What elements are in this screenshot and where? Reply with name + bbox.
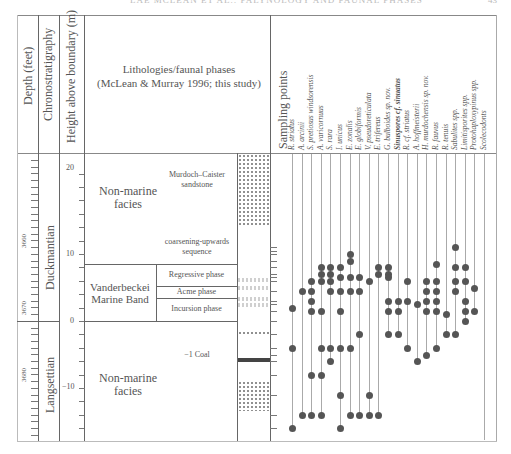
occurrence-dot [337, 425, 344, 432]
height-label-0: 0 [70, 316, 74, 325]
occurrence-dot [375, 271, 382, 278]
occurrence-dot [337, 274, 344, 281]
depth-tick [31, 368, 38, 369]
sample-tick [270, 395, 277, 396]
occurrence-dot [318, 345, 325, 352]
species-label: Scolecodonts [479, 110, 488, 150]
sandstone-line2: sandstone [157, 180, 237, 190]
height-label-minus10: −10 [62, 382, 75, 391]
sandstone-label: Murdoch–Caister sandstone [157, 170, 237, 190]
coal-seam [238, 358, 270, 362]
depth-tick [31, 281, 38, 282]
height-tick [79, 187, 85, 188]
occurrence-dot [395, 331, 402, 338]
occurrence-dot [462, 264, 469, 271]
occurrence-dot [375, 412, 382, 419]
col-divider-height [84, 15, 85, 441]
sample-tick [270, 355, 277, 356]
coarsening-label: coarsening-upwards sequence [157, 237, 237, 257]
occurrence-dot [347, 258, 354, 265]
occurrence-dot [289, 345, 296, 352]
depth-tick [31, 294, 38, 295]
height-tick [79, 241, 84, 242]
sample-tick [270, 267, 277, 268]
marine-band-label: Vanderbeckei Marine Band [84, 281, 156, 305]
height-tick [79, 254, 85, 255]
species-range-line [359, 154, 360, 415]
depth-tick [31, 247, 38, 248]
occurrence-dot [299, 412, 306, 419]
stage-langsettian: Langsettian [43, 357, 58, 413]
species-label: G. bulboides sp. nov. [383, 87, 392, 150]
occurrence-dot [414, 301, 421, 308]
occurrence-dot [337, 392, 344, 399]
species-range-line [465, 154, 466, 321]
marine-pattern-2 [238, 286, 270, 290]
depth-tick [31, 314, 38, 315]
depth-tick [31, 214, 38, 215]
occurrence-dot [462, 308, 469, 315]
depth-tick [31, 173, 38, 174]
occurrence-dot [308, 288, 315, 295]
occurrence-dot [452, 264, 459, 271]
height-tick [79, 174, 84, 175]
occurrence-dot [433, 308, 440, 315]
depth-tick [31, 354, 38, 355]
page-number: 43 [488, 0, 497, 5]
occurrence-dot [347, 288, 354, 295]
occurrence-dot [308, 298, 315, 305]
occurrence-dot [462, 318, 469, 325]
frame-bottom [17, 441, 497, 442]
depth-tick [31, 395, 38, 396]
upper-facies-line2: facies [88, 198, 168, 211]
species-range-line [417, 154, 418, 361]
occurrence-dot [337, 264, 344, 271]
marine-band-base [84, 321, 237, 322]
header-lithology-line2: (McLean & Murray 1996; this study) [88, 76, 270, 90]
species-label: A. varicornuus [316, 105, 325, 150]
depth-tick [31, 428, 38, 429]
occurrence-dot [366, 412, 373, 419]
depth-tick [31, 307, 38, 308]
species-label: S. rara [325, 129, 334, 150]
depth-tick [31, 287, 38, 288]
col-divider-lithology [270, 15, 271, 441]
occurrence-dot [443, 331, 450, 338]
occurrence-dot [385, 274, 392, 281]
height-tick [79, 214, 84, 215]
species-range-line [330, 154, 331, 361]
species-label: Sinuspores cf. sinuatus [393, 78, 402, 150]
occurrence-dot [433, 288, 440, 295]
depth-tick [31, 160, 38, 161]
occurrence-dot [356, 331, 363, 338]
species-label: E. zonalis [345, 120, 354, 150]
frame-right [496, 15, 497, 441]
sample-tick [270, 301, 277, 302]
species-label: S. pretiosus windsorensis [306, 75, 315, 151]
occurrence-dot [385, 331, 392, 338]
species-label: E. globiformis [354, 107, 363, 150]
occurrence-dot [327, 345, 334, 352]
height-tick [79, 200, 84, 201]
occurrence-dot [423, 288, 430, 295]
occurrence-dot [414, 358, 421, 365]
occurrence-dot [356, 412, 363, 419]
col-divider-depth [38, 15, 39, 441]
depth-tick [31, 194, 38, 195]
occurrence-dot [385, 308, 392, 315]
occurrence-dot [423, 308, 430, 315]
species-label: R. striatus [287, 119, 296, 150]
marine-band-line2: Marine Band [84, 293, 156, 305]
height-tick [79, 401, 84, 402]
sample-tick [270, 291, 277, 292]
species-label: R. tenuis [441, 124, 450, 150]
species-range-line [436, 154, 437, 348]
marine-band-top [84, 264, 237, 265]
occurrence-dot [337, 308, 344, 315]
height-tick [79, 348, 84, 349]
depth-label-3680: 3680 [20, 368, 28, 382]
depth-tick [31, 220, 38, 221]
species-label: I. unicus [335, 124, 344, 150]
occurrence-dot [395, 298, 402, 305]
header-height: Height above boundary (m) [64, 10, 79, 143]
